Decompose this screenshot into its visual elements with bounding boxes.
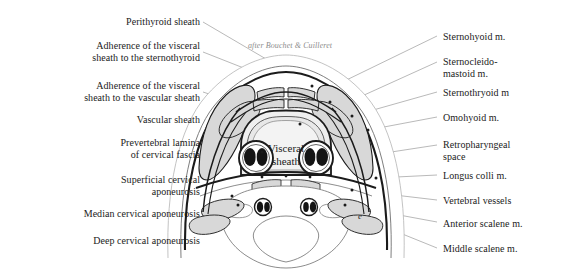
label-sternothyroid-muscle: Sternothryoid m [443,87,563,99]
visceral-sheath-center-label: Visceral sheath [256,142,316,168]
label-adherence-visceral-sheath-to-sternothyroid: Adherence of the visceral sheath to the … [0,40,200,63]
label-sternocleidomastoid-muscle: Sternocleido- mastoid m. [443,56,563,79]
label-median-cervical-aponeurosis: Median cervical aponeurosis [0,208,200,220]
vertebral-vessels-right [301,199,318,216]
label-vertebral-vessels: Vertebral vessels [443,195,563,207]
attribution-text: after Bouchet & Cuilleret [248,41,332,50]
label-perithyroid-sheath: Perithyroid sheath [0,16,200,28]
label-deep-cervical-aponeurosis: Deep cervical aponeurosis [0,235,200,247]
vertebral-vessels-left [255,199,272,216]
label-vascular-sheath: Vascular sheath [0,114,200,126]
label-anterior-scalene-muscle: Anterior scalene m. [443,218,563,230]
label-longus-colli-muscle: Longus colli m. [443,170,563,182]
label-omohyoid-muscle: Omohyoid m. [443,112,563,124]
label-middle-scalene-muscle: Middle scalene m. [443,243,563,255]
label-adherence-visceral-sheath-to-vascular-sheath: Adherence of the visceral sheath to the … [0,80,200,103]
label-sternohyoid-muscle: Sternohyoid m. [443,31,563,43]
marker-letter-e: e [358,211,362,221]
figure-page: after Bouchet & Cuilleret Visceral sheat… [0,0,563,273]
label-superficial-cervical-aponeurosis: Superficial cervical aponeurosis [0,174,200,197]
label-prevertebral-lamina-of-cervical-fascia: Prevertebral lamina of cervical fascia [0,137,200,160]
label-retropharyngeal-space: Retropharyngeal space [443,139,563,162]
